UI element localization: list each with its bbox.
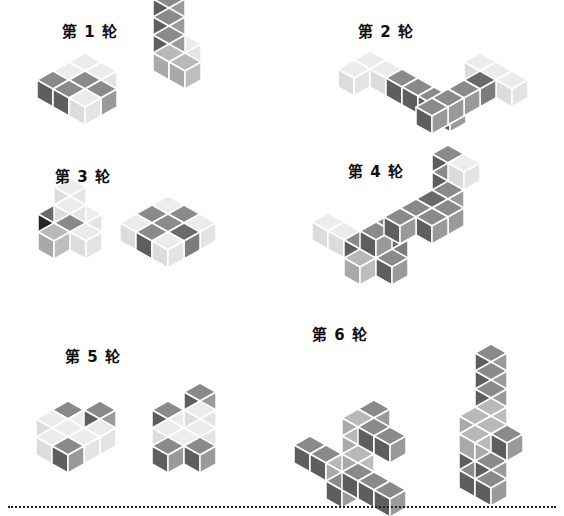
cube-figure-round-3-right [168,205,169,206]
round-title-5: 第 5 轮 [65,345,121,366]
round-title-2: 第 2 轮 [358,20,414,41]
cube-figure-round-6-left [310,445,311,446]
round-title-6: 第 6 轮 [312,323,368,344]
round-title-3: 第 3 轮 [55,165,111,186]
dotted-divider [8,506,556,508]
cube-figure-round-2-left [370,60,371,61]
cube-figure-round-1-left [85,62,86,63]
cube-figure-round-6-right [475,470,476,471]
cube-figure-round-4-right [448,190,449,191]
cube-figure-round-5-right [168,410,169,411]
cube-figure-round-4-left [328,222,329,223]
cube-figure-round-2-right [480,62,481,63]
cube-figure-round-5-left [68,410,69,411]
cube-figure-round-3-left [70,205,71,206]
round-title-1: 第 1 轮 [62,20,118,41]
cube-figure-round-1-right [185,44,186,45]
round-title-4: 第 4 轮 [348,160,404,181]
